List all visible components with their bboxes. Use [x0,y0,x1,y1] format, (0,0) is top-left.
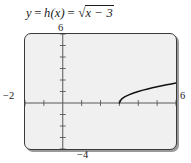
equation-equals-2: = [65,6,77,20]
x-axis-max-label: 6 [180,90,185,101]
equation-lhs: y [26,6,32,20]
function-curve [119,83,176,103]
plot-canvas [25,34,176,149]
radical-expression: √x − 3 [77,5,114,21]
x-axis-min-label: −2 [3,90,14,101]
y-axis-max-label: 6 [58,22,63,33]
radicand: x − 3 [85,5,114,21]
equation-caption: y=h(x)=√x − 3 [26,5,114,21]
equation-equals-1: = [32,6,44,20]
equation-function: h(x) [44,6,65,20]
y-axis-min-label: −4 [77,149,88,160]
figure-root: y=h(x)=√x − 3 [0,0,191,163]
plot-frame [24,33,177,150]
